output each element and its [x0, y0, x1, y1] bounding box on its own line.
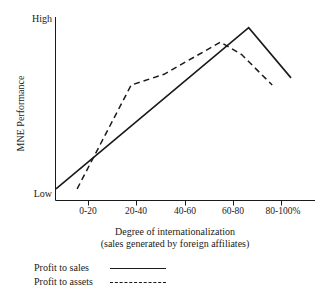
legend-label-profit-to-sales: Profit to sales [34, 262, 89, 273]
x-tick-label-3: 60-80 [205, 206, 261, 217]
plot-area [0, 0, 325, 297]
data-series-layer [56, 28, 291, 189]
chart-legend: Profit to sales Profit to assets [34, 262, 234, 290]
legend-swatch-solid-line [110, 268, 166, 271]
legend-label-profit-to-assets: Profit to assets [34, 276, 93, 287]
legend-item-profit-to-assets: Profit to assets [34, 276, 234, 290]
y-axis-title: MNE Performance [15, 54, 26, 174]
chart-figure: High Low MNE Performance 0-20 20-40 40-6… [0, 0, 325, 297]
x-axis-title: Degree of internationalization [55, 226, 295, 237]
series-line-profit-to-sales [56, 28, 291, 189]
legend-item-profit-to-sales: Profit to sales [34, 262, 234, 276]
series-line-profit-to-assets [77, 42, 272, 189]
y-axis-high-label: High [24, 13, 52, 24]
legend-swatch-dashed-line [110, 282, 166, 285]
x-tick-label-1: 20-40 [108, 206, 164, 217]
axes [56, 17, 316, 206]
y-axis-low-label: Low [24, 188, 52, 199]
x-tick-marks [89, 201, 282, 206]
x-tick-label-4: 80-100% [255, 206, 311, 217]
x-axis-subtitle: (sales generated by foreign affiliates) [55, 238, 295, 249]
